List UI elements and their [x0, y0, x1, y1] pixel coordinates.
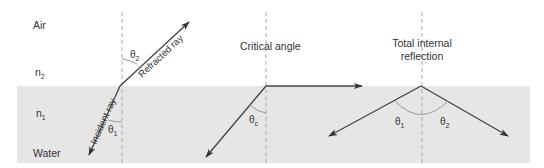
tir-title-line1: Total internal	[392, 37, 452, 49]
water-region	[17, 86, 530, 163]
tir-title-line2: reflection	[401, 50, 444, 62]
critical-angle-title: Critical angle	[240, 40, 301, 52]
refracted-ray-label: Refracted ray	[136, 32, 185, 79]
n2-label: n2	[35, 66, 45, 80]
refraction-diagram: Air n2 n1 Water Incident ray Refracted r…	[0, 0, 544, 168]
theta2-label: θ2	[130, 49, 140, 62]
water-label: Water	[33, 147, 61, 159]
air-label: Air	[33, 19, 46, 31]
